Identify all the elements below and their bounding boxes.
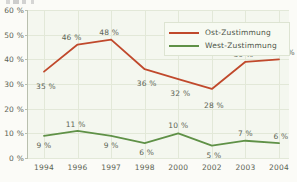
legend-item-ost[interactable]: Ost-Zustimmung [169,26,285,39]
data-label-ost: 28 % [204,101,224,110]
x-axis-tick-label: 1994 [34,163,54,172]
data-label-ost: 48 % [99,28,119,37]
y-axis-tick-label: 0 % [9,154,24,163]
chart-container: 0 %10 %20 %30 %40 %50 %60 % 35 %46 %48 %… [0,0,297,182]
data-label-ost: 46 % [62,33,82,42]
legend-swatch-west-icon [169,45,199,47]
legend-swatch-ost-icon [169,32,199,34]
x-axis-tick-label: 1998 [135,163,155,172]
x-axis-tick-label: 1996 [68,163,88,172]
x-axis-tick-label: 1997 [101,163,121,172]
data-label-west: 10 % [168,121,188,130]
gridline-horizontal [28,158,289,159]
data-label-ost: 32 % [170,89,190,98]
data-label-west: 6 % [139,148,154,157]
legend-label-ost: Ost-Zustimmung [205,28,271,37]
y-axis-tick-label: 40 % [4,55,24,64]
x-axis-tick-label: 2000 [168,163,188,172]
x-axis-tick-label: 2003 [235,163,255,172]
data-label-ost: 35 % [36,82,56,91]
y-axis-tick-label: 60 % [4,6,24,15]
legend-item-west[interactable]: West-Zustimmung [169,39,285,52]
data-label-west: 9 % [104,141,119,150]
y-axis-tick [25,158,28,159]
data-label-west: 11 % [66,120,86,129]
legend-label-west: West-Zustimmung [205,41,277,50]
x-axis-tick-label: 2002 [202,163,222,172]
chart-legend: Ost-Zustimmung West-Zustimmung [164,22,290,56]
y-axis-tick-label: 30 % [4,80,24,89]
cropped-title-artifact [6,0,40,4]
y-axis-tick-label: 50 % [4,30,24,39]
data-label-west: 9 % [37,141,52,150]
y-axis-tick-label: 10 % [4,129,24,138]
y-axis-tick-label: 20 % [4,104,24,113]
data-label-west: 6 % [274,132,289,141]
data-label-ost: 36 % [137,79,157,88]
data-label-west: 7 % [238,129,253,138]
x-axis-tick-label: 2004 [269,163,289,172]
data-label-west: 5 % [206,151,221,160]
